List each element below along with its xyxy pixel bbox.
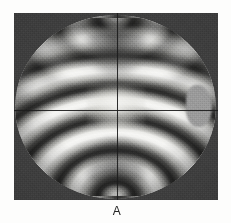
figure-caption-label: A: [110, 203, 122, 219]
figure-caption: A: [0, 203, 231, 219]
crosshair-vertical-line: [117, 13, 118, 200]
crosshair-horizontal-line: [14, 110, 218, 111]
field-edge-bulge: [186, 85, 212, 127]
micrograph-photo: [14, 13, 218, 200]
figure-plate: A: [0, 0, 231, 223]
